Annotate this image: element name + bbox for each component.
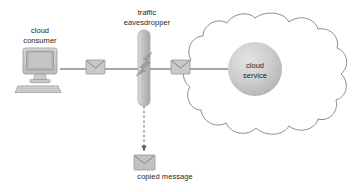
envelope-icon-copied-message (134, 155, 155, 170)
label-traffic-eavesdropper: traffic eavesdropper (113, 8, 181, 27)
label-cloud-consumer: cloud consumer (8, 26, 72, 45)
diagram-canvas: cloud consumer traffic eavesdropper clou… (0, 0, 353, 192)
label-copied-message: copied message (110, 172, 220, 182)
eavesdropper-bar-icon (136, 30, 152, 106)
label-cloud-service: cloud service (229, 61, 281, 80)
envelope-icon-outbound-1 (86, 60, 105, 74)
envelope-icon-outbound-2 (171, 60, 190, 74)
desktop-computer-icon (15, 48, 61, 93)
